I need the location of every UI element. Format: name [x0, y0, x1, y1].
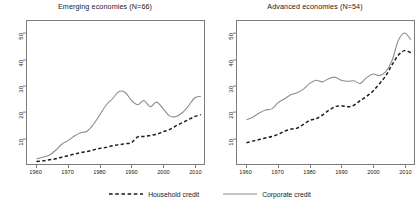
plot-area-advanced	[236, 20, 415, 165]
x-tick-label: 2010	[189, 169, 201, 175]
y-tick-label: 50	[18, 33, 24, 40]
x-tick-label: 2000	[157, 169, 169, 175]
y-tick-label: 30	[228, 86, 234, 93]
y-axis-advanced: 1020304050	[210, 20, 236, 165]
figure-root: Emerging economies (N=66) 1020304050 196…	[0, 0, 420, 210]
x-tick-mark	[246, 165, 247, 168]
x-axis-advanced: 196019701980199020002010	[236, 165, 415, 181]
y-tick-label: 10	[18, 139, 24, 146]
x-tick-mark	[310, 165, 311, 168]
y-tick-label: 10	[228, 139, 234, 146]
x-tick-label: 2000	[367, 169, 379, 175]
plot-area-emerging	[26, 20, 205, 165]
x-tick-mark	[341, 165, 342, 168]
x-tick-mark	[405, 165, 406, 168]
x-tick-label: 2010	[399, 169, 411, 175]
x-tick-label: 1990	[125, 169, 137, 175]
x-tick-label: 1980	[303, 169, 315, 175]
x-tick-mark	[100, 165, 101, 168]
legend-item-corporate-credit: Corporate credit	[223, 190, 311, 198]
legend-swatch-dashed	[109, 190, 143, 198]
x-tick-mark	[163, 165, 164, 168]
panel-title-emerging: Emerging economies (N=66)	[0, 2, 210, 11]
x-tick-label: 1960	[239, 169, 251, 175]
x-tick-mark	[278, 165, 279, 168]
chart-legend: Household credit Corporate credit	[0, 186, 420, 202]
legend-label-corporate-credit: Corporate credit	[262, 191, 311, 198]
panel-advanced-economies: Advanced economies (N=54) 1020304050 196…	[210, 0, 420, 182]
plot-lines-emerging	[27, 21, 204, 164]
x-tick-label: 1990	[335, 169, 347, 175]
plot-lines-advanced	[237, 21, 414, 164]
legend-item-household-credit: Household credit	[109, 190, 199, 198]
y-tick-label: 20	[228, 112, 234, 119]
y-tick-label: 50	[228, 33, 234, 40]
x-tick-label: 1960	[29, 169, 41, 175]
y-tick-label: 20	[18, 112, 24, 119]
legend-label-household-credit: Household credit	[148, 191, 199, 198]
x-tick-label: 1970	[61, 169, 73, 175]
panel-title-advanced: Advanced economies (N=54)	[210, 2, 420, 11]
series-line-household-credit	[246, 51, 410, 143]
y-tick-label: 30	[18, 86, 24, 93]
legend-swatch-solid	[223, 190, 257, 198]
x-tick-label: 1970	[271, 169, 283, 175]
x-tick-mark	[36, 165, 37, 168]
x-tick-mark	[195, 165, 196, 168]
x-tick-mark	[373, 165, 374, 168]
series-line-household-credit	[36, 115, 200, 162]
y-axis-emerging: 1020304050	[0, 20, 26, 165]
series-line-corporate-credit	[246, 33, 410, 120]
x-tick-label: 1980	[93, 169, 105, 175]
x-axis-emerging: 196019701980199020002010	[26, 165, 205, 181]
x-tick-mark	[131, 165, 132, 168]
panel-emerging-economies: Emerging economies (N=66) 1020304050 196…	[0, 0, 210, 182]
x-tick-mark	[68, 165, 69, 168]
y-tick-label: 40	[18, 60, 24, 67]
y-tick-label: 40	[228, 60, 234, 67]
